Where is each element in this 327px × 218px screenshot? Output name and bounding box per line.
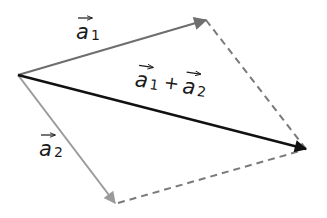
dashed-side-a2-parallel xyxy=(206,20,306,149)
svg-text:2: 2 xyxy=(196,83,207,100)
svg-text:1: 1 xyxy=(149,76,160,93)
svg-text:a: a xyxy=(181,74,197,100)
svg-text:a: a xyxy=(76,20,89,44)
svg-text:1: 1 xyxy=(91,27,100,43)
vector-a1 xyxy=(18,20,206,75)
label-sum: a 1 + a 2 xyxy=(134,65,209,101)
vector-sum xyxy=(18,75,306,149)
vector-addition-diagram: a 1 a 2 a 1 + a 2 xyxy=(0,0,327,218)
svg-text:a: a xyxy=(134,67,150,93)
label-a2: a 2 xyxy=(39,135,63,161)
svg-text:2: 2 xyxy=(54,144,63,160)
label-a1: a 1 xyxy=(76,18,100,44)
dashed-side-a1-parallel xyxy=(118,151,300,203)
vector-a2 xyxy=(18,75,115,203)
svg-text:a: a xyxy=(39,137,52,161)
svg-text:+: + xyxy=(163,71,181,94)
diagram-svg: a 1 a 2 a 1 + a 2 xyxy=(0,0,327,218)
